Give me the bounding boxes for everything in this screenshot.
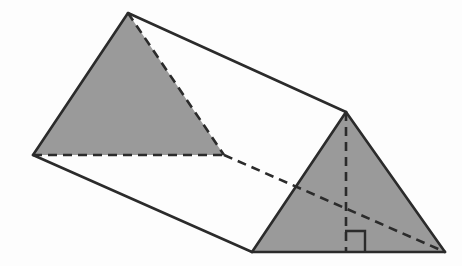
- figure-container: An oblique view of a triangular prism wi…: [0, 0, 462, 266]
- triangular-prism-figure: [0, 0, 462, 266]
